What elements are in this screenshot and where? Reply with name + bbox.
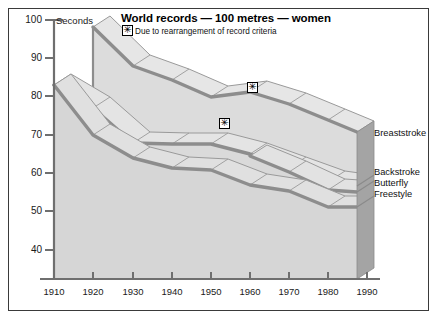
y-tick-label-40: 40 [16, 245, 42, 255]
series-label-breaststroke: Breaststroke [374, 128, 426, 139]
series-label-backstroke: Backstroke [374, 167, 420, 178]
x-tick-label-1940: 1940 [155, 287, 189, 297]
annotation-marker-backstroke: ✳ [219, 118, 230, 129]
series-label-freestyle: Freestyle [374, 189, 412, 200]
chart-screenshot: World records — 100 metres — women ✳ Due… [0, 0, 439, 321]
y-axis-ticks [45, 20, 54, 250]
x-tick-label-1930: 1930 [116, 287, 150, 297]
note-marker-glyph: ✳ [123, 24, 131, 35]
annotation-glyph-2: ✳ [220, 117, 228, 128]
annotation-marker-breaststroke: ✳ [247, 82, 258, 93]
annotation-glyph-1: ✳ [248, 81, 256, 92]
x-tick-label-1970: 1970 [272, 287, 306, 297]
x-tick-label-1990: 1990 [350, 287, 384, 297]
chart-3d-right-face [357, 121, 374, 279]
x-tick-label-1980: 1980 [311, 287, 345, 297]
area-chart-plot [0, 0, 439, 321]
series-label-butterfly: Butterfly [374, 178, 408, 189]
y-tick-label-100: 100 [16, 15, 42, 25]
x-tick-label-1950: 1950 [194, 287, 228, 297]
y-tick-label-60: 60 [16, 168, 42, 178]
chart-subtitle-note: Due to rearrangement of record criteria [135, 27, 277, 36]
x-tick-label-1910: 1910 [37, 287, 71, 297]
y-axis-caption: Seconds [56, 15, 93, 26]
chart-title: World records — 100 metres — women [121, 12, 331, 24]
note-marker-icon: ✳ [122, 25, 133, 36]
x-tick-label-1920: 1920 [76, 287, 110, 297]
y-tick-label-90: 90 [16, 53, 42, 63]
y-tick-label-50: 50 [16, 206, 42, 216]
ribbon-group [54, 16, 374, 279]
x-tick-label-1960: 1960 [233, 287, 267, 297]
y-tick-label-80: 80 [16, 91, 42, 101]
y-tick-label-70: 70 [16, 130, 42, 140]
